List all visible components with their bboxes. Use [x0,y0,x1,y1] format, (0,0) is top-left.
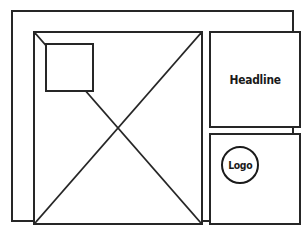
logo-panel[interactable]: Logo [209,133,301,225]
headline-panel[interactable]: Headline [209,31,301,128]
wireframe-canvas: Headline Logo [0,0,307,235]
logo-text: Logo [228,159,252,172]
page-border-frame: Headline Logo [11,10,294,222]
logo-badge-icon[interactable]: Logo [221,146,259,184]
inset-square[interactable] [45,43,94,92]
headline-text: Headline [229,72,280,87]
